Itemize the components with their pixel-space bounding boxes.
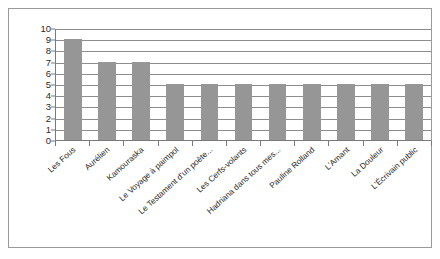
- y-axis-tick-mark: [51, 29, 55, 30]
- y-axis-tick-mark: [51, 129, 55, 130]
- y-axis-tick-mark: [51, 51, 55, 52]
- bar-slot: [56, 29, 90, 140]
- bar: [132, 62, 150, 140]
- y-axis-tick-mark: [51, 40, 55, 41]
- y-axis-tick-mark: [51, 96, 55, 97]
- x-axis-category-label: Aurélien: [84, 146, 112, 172]
- bar: [64, 39, 82, 140]
- y-axis-tick-mark: [51, 107, 55, 108]
- bar-slot: [192, 29, 226, 140]
- bar-slot: [397, 29, 431, 140]
- bar-slot: [124, 29, 158, 140]
- chart-screenshot: 012345678910 Les FousAurélienKamouraskaL…: [0, 0, 440, 259]
- bar: [337, 84, 355, 140]
- bar-slot: [226, 29, 260, 140]
- bar-slot: [363, 29, 397, 140]
- bar: [269, 84, 287, 140]
- plot-area: [55, 29, 431, 141]
- bar: [371, 84, 389, 140]
- x-axis-category-label: L'Amant: [323, 146, 351, 172]
- x-axis-category-label: Les Fous: [47, 146, 78, 175]
- bar-slot: [295, 29, 329, 140]
- figure-frame: 012345678910 Les FousAurélienKamouraskaL…: [8, 8, 432, 248]
- y-axis-tick-label: 10: [40, 24, 51, 34]
- x-axis-labels: Les FousAurélienKamouraskaLe Voyage à pa…: [55, 142, 431, 242]
- bar: [235, 84, 253, 140]
- x-axis-tick-mark: [431, 141, 432, 146]
- y-axis-tick-mark: [51, 118, 55, 119]
- y-axis: 012345678910: [25, 29, 51, 141]
- bar-slot: [90, 29, 124, 140]
- bar: [98, 62, 116, 140]
- y-axis-tick-mark: [51, 141, 55, 142]
- bar-slot: [261, 29, 295, 140]
- bar: [201, 84, 219, 140]
- bar-slot: [158, 29, 192, 140]
- y-axis-tick-mark: [51, 73, 55, 74]
- y-axis-tick-mark: [51, 85, 55, 86]
- bar: [303, 84, 321, 140]
- bar-slot: [329, 29, 363, 140]
- y-axis-tick-mark: [51, 62, 55, 63]
- bar: [405, 84, 423, 140]
- bar-series: [56, 29, 431, 140]
- bar: [166, 84, 184, 140]
